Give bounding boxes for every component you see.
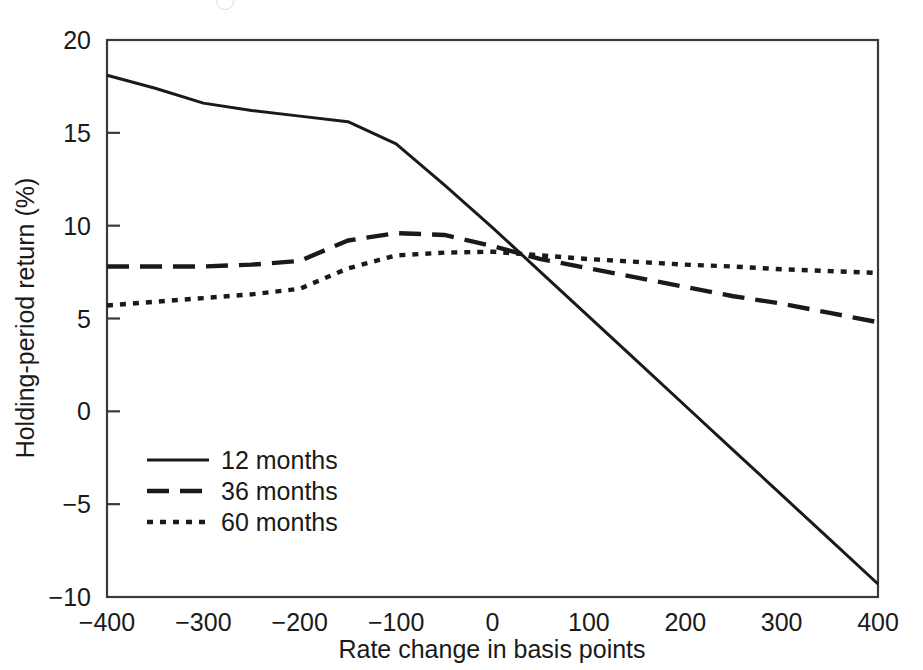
x-axis-title: Rate change in basis points bbox=[338, 635, 645, 663]
x-tick-label: −100 bbox=[368, 608, 424, 636]
y-tick-label: 0 bbox=[77, 397, 91, 425]
x-tick-label: 200 bbox=[664, 608, 706, 636]
x-tick-label: −400 bbox=[79, 608, 135, 636]
x-tick-label: 100 bbox=[568, 608, 610, 636]
line-chart: −10−505101520 −400−300−200−1000100200300… bbox=[0, 0, 923, 670]
x-tick-label: −200 bbox=[272, 608, 328, 636]
y-tick-label: 20 bbox=[63, 26, 91, 54]
x-axis-tick-labels: −400−300−200−1000100200300400 bbox=[79, 608, 899, 636]
y-tick-label: −10 bbox=[49, 583, 91, 611]
x-tick-label: 0 bbox=[486, 608, 500, 636]
legend-label-60-months: 60 months bbox=[221, 508, 338, 536]
legend-label-12-months: 12 months bbox=[221, 446, 338, 474]
chart-figure: −10−505101520 −400−300−200−1000100200300… bbox=[0, 0, 923, 670]
y-tick-label: 5 bbox=[77, 305, 91, 333]
x-tick-label: −300 bbox=[175, 608, 231, 636]
y-axis-title: Holding-period return (%) bbox=[11, 178, 39, 459]
y-tick-label: 15 bbox=[63, 119, 91, 147]
chart-background bbox=[0, 0, 923, 670]
x-tick-label: 300 bbox=[761, 608, 803, 636]
y-tick-label: 10 bbox=[63, 212, 91, 240]
legend-label-36-months: 36 months bbox=[221, 477, 338, 505]
y-tick-label: −5 bbox=[62, 490, 91, 518]
x-tick-label: 400 bbox=[857, 608, 899, 636]
